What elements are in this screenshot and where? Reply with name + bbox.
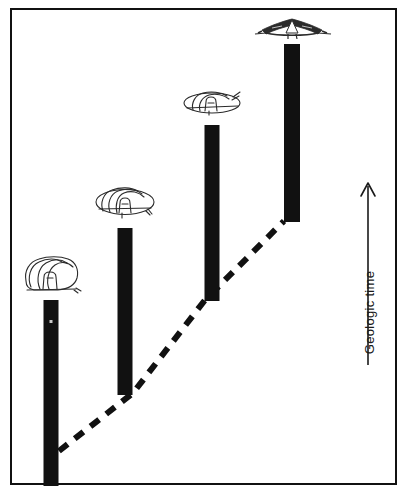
fossil-sketch-2 [96,188,154,218]
trend-line-dashed [59,221,284,451]
fossil-sketch-1 [26,257,81,293]
evolution-stratigraphic-plot [0,0,409,498]
geologic-time-axis-label: Geologic time [352,255,386,375]
fossil-sketch-3 [184,92,240,115]
range-bar-3 [205,125,220,301]
range-bar-1 [44,300,59,486]
axis-label-text: Geologic time [362,253,377,373]
range-bar-2 [118,228,133,395]
figure-root: Geologic time [0,0,409,498]
range-bar-4 [284,44,300,222]
fossil-sketch-4 [255,19,331,39]
